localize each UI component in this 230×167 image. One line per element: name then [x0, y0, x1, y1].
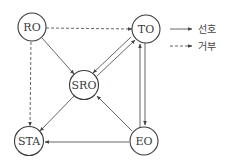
edge-sro-to-sta: [40, 96, 74, 131]
node-eo-label: EO: [135, 135, 152, 148]
node-sta: STA: [15, 127, 44, 156]
legend-label-rejection: 거부: [198, 41, 216, 52]
edge-ro-to-sta: [30, 42, 31, 126]
edge-sro-to-to: [97, 40, 135, 76]
node-to-label: TO: [138, 23, 154, 36]
legend-item-preference: 선호: [170, 24, 216, 35]
node-to: TO: [132, 15, 160, 43]
node-eo: EO: [130, 127, 158, 155]
legend-item-rejection: 거부: [170, 41, 216, 52]
node-sro: SRO: [70, 71, 99, 100]
node-ro: RO: [18, 13, 46, 41]
edge-to-to-sro: [93, 37, 131, 73]
node-ro-label: RO: [23, 21, 40, 34]
edge-ro-to-sro: [42, 38, 74, 74]
legend: 선호 거부: [170, 24, 216, 52]
node-sro-label: SRO: [72, 79, 97, 92]
edge-ro-to-to: [46, 28, 132, 29]
node-sta-label: STA: [18, 135, 41, 148]
preference-diagram: RO TO SRO STA EO 선호 거부: [0, 0, 230, 167]
legend-label-preference: 선호: [198, 24, 216, 35]
edge-eo-to-sro: [97, 96, 132, 131]
